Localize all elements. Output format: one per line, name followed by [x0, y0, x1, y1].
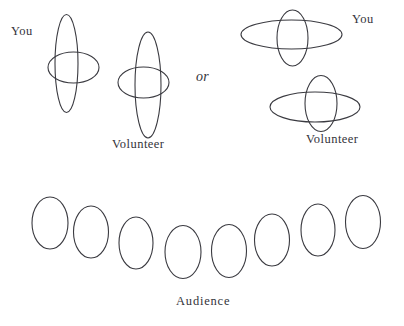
- audience-seat-3: [119, 217, 153, 269]
- seating-diagram: You Volunteer or You Volunteer Audience: [0, 0, 404, 326]
- label-you-right: You: [352, 13, 374, 26]
- label-audience: Audience: [176, 295, 230, 308]
- option-a-group: [48, 15, 169, 139]
- audience-seat-4: [165, 226, 201, 279]
- volunteer-left-chair-back: [135, 32, 161, 138]
- label-you-left: You: [11, 25, 33, 38]
- diagram-canvas: [0, 0, 404, 326]
- option-b-group: [241, 10, 360, 132]
- label-volunteer-left: Volunteer: [112, 138, 164, 151]
- you-left-chair-back: [55, 15, 78, 113]
- you-left-chair-seat: [48, 52, 99, 83]
- label-or-separator: or: [196, 70, 209, 83]
- audience-seat-1: [32, 197, 68, 249]
- audience-seat-6: [255, 214, 290, 266]
- you-right-chair-seat: [241, 20, 342, 49]
- audience-seat-2: [74, 206, 109, 258]
- label-volunteer-right: Volunteer: [306, 133, 358, 146]
- volunteer-right-chair-back: [305, 76, 337, 132]
- audience-seat-7: [301, 204, 335, 256]
- audience-seat-8: [346, 196, 381, 249]
- audience-seat-5: [212, 225, 247, 278]
- audience-group: [32, 196, 381, 279]
- you-right-chair-back: [277, 10, 308, 66]
- volunteer-right-chair-seat: [270, 92, 360, 122]
